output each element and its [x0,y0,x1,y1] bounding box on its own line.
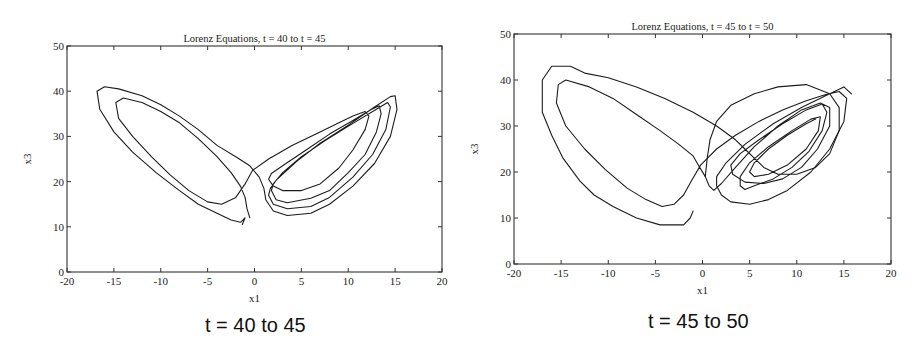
caption-t45-50: t = 45 to 50 [648,310,749,333]
lorenz-plot-t45-50: -20-15-10-50510152001020304050Lorenz Equ… [0,0,915,353]
x-tick-label: 15 [838,267,850,279]
y-tick-label: 50 [500,28,512,40]
y-tick-label: 10 [500,212,512,224]
trajectory-line [542,66,839,225]
y-tick-label: 30 [500,120,512,132]
trajectory-line [556,80,851,207]
plot-svg: -20-15-10-50510152001020304050Lorenz Equ… [0,0,915,353]
plot-frame [514,34,891,264]
x-tick-label: 20 [886,267,898,279]
y-tick-label: 20 [500,166,512,178]
chart-title: Lorenz Equations, t = 45 to t = 50 [631,21,773,32]
x-tick-label: -5 [651,267,661,279]
x-tick-label: 10 [791,267,803,279]
x-axis-label: x1 [697,284,708,296]
y-axis-label: x3 [468,143,480,155]
y-tick-label: 0 [506,258,512,270]
x-tick-label: -15 [554,267,569,279]
x-tick-label: -10 [601,267,616,279]
x-tick-label: 5 [747,267,753,279]
y-tick-label: 40 [500,74,512,86]
x-tick-label: 0 [700,267,706,279]
